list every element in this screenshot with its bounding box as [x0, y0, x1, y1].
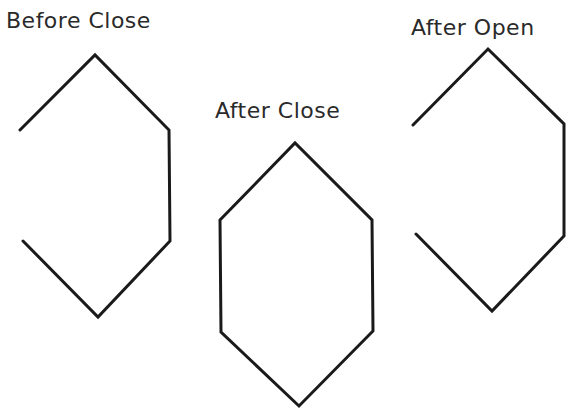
- hexagon-after-open-open: [413, 49, 564, 311]
- diagram-canvas: Before Close After Close After Open: [0, 0, 573, 418]
- hexagon-before-close-open: [20, 55, 170, 317]
- hexagon-after-close-closed: [220, 143, 373, 406]
- shapes-layer: [0, 0, 573, 418]
